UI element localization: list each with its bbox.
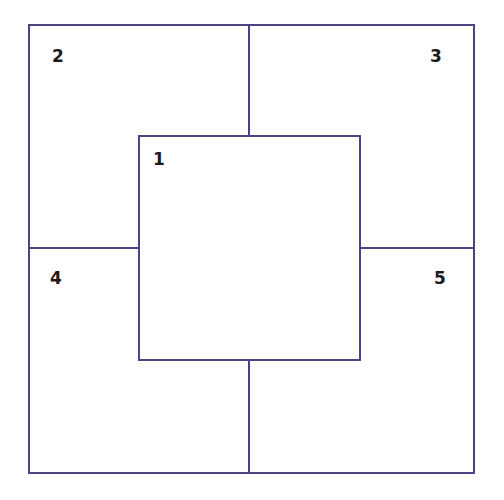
region-label-3: 3 — [430, 46, 442, 66]
region-label-2: 2 — [52, 46, 64, 66]
divider-bottom-vertical — [248, 359, 250, 473]
divider-top-vertical — [248, 24, 250, 137]
divider-left-horizontal — [28, 247, 140, 249]
inner-square — [138, 135, 361, 361]
divider-right-horizontal — [359, 247, 474, 249]
region-label-5: 5 — [434, 268, 446, 288]
region-label-4: 4 — [50, 268, 62, 288]
region-label-1: 1 — [153, 149, 165, 169]
